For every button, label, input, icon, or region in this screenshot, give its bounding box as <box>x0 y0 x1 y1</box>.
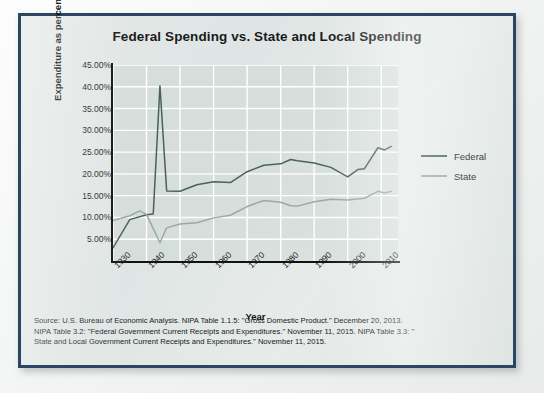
chart-legend: FederalState <box>421 146 511 186</box>
y-axis-title: Expenditure as percent of GDP <box>52 0 63 106</box>
x-axis-tick-labels: 193019401950196019701980199020002010 <box>113 263 413 307</box>
series-line-federal <box>113 86 391 248</box>
y-tick-label: 25.00% <box>82 147 111 157</box>
y-tick-label: 45.00% <box>82 60 111 70</box>
y-tick-label: 40.00% <box>82 82 111 92</box>
page-background: and the state and local government spend… <box>0 0 544 393</box>
legend-swatch-icon <box>421 175 447 177</box>
y-tick-label: 15.00% <box>82 191 111 201</box>
plot-area <box>113 65 398 261</box>
legend-item-federal: Federal <box>421 146 511 166</box>
source-line: NIPA Table 3.2: "Federal Government Curr… <box>34 327 500 338</box>
source-line: Source: U.S. Bureau of Economic Analysis… <box>34 316 500 327</box>
source-note: Source: U.S. Bureau of Economic Analysis… <box>34 316 500 348</box>
y-tick-label: 35.00% <box>82 104 111 114</box>
y-tick-label: 30.00% <box>82 125 111 135</box>
y-tick-label: 5.00% <box>87 234 111 244</box>
y-axis-line <box>111 63 113 263</box>
y-tick-label: 10.00% <box>82 212 111 222</box>
source-line: State and Local Government Current Recei… <box>34 337 500 348</box>
legend-label: State <box>454 171 476 182</box>
chart-title: Federal Spending vs. State and Local Spe… <box>21 29 513 44</box>
chart-svg <box>113 65 398 261</box>
y-tick-label: 20.00% <box>82 169 111 179</box>
legend-swatch-icon <box>421 155 447 157</box>
legend-item-state: State <box>421 166 511 186</box>
chart-plot-region: Expenditure as percent of GDP 5.00%10.00… <box>21 46 513 306</box>
legend-label: Federal <box>454 151 486 162</box>
series-lines <box>113 86 391 248</box>
chart-figure-frame: Federal Spending vs. State and Local Spe… <box>18 13 516 368</box>
y-axis-tick-labels: 5.00%10.00%15.00%20.00%25.00%30.00%35.00… <box>65 65 111 261</box>
